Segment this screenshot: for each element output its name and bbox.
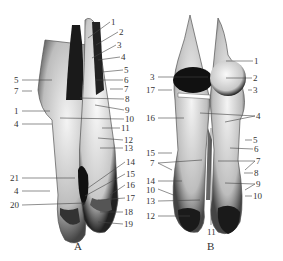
label-b-r8: 8 <box>254 169 259 178</box>
label-b-r6: 6 <box>254 145 259 154</box>
label-b-17: 17 <box>146 86 155 95</box>
label-b-r4: 4 <box>256 112 261 121</box>
label-a-5: 5 <box>14 76 19 85</box>
label-a-r8: 8 <box>125 95 130 104</box>
caption-b: B <box>207 240 214 252</box>
label-a-r14: 14 <box>126 158 135 167</box>
label-a-4: 4 <box>14 120 19 129</box>
label-b-r9: 9 <box>256 180 261 189</box>
label-b-r3: 3 <box>253 86 258 95</box>
label-a-20: 20 <box>10 201 19 210</box>
label-b-3: 3 <box>150 73 155 82</box>
label-a-r2: 2 <box>119 28 124 37</box>
label-b-16: 16 <box>146 114 155 123</box>
label-a-r7: 7 <box>124 85 129 94</box>
label-a-r18: 18 <box>124 208 133 217</box>
label-b-r2: 2 <box>253 74 258 83</box>
label-b-12: 12 <box>146 212 155 221</box>
label-b-10: 10 <box>146 186 155 195</box>
label-a-4b: 4 <box>14 187 19 196</box>
label-a-r5: 5 <box>124 66 129 75</box>
label-a-r17: 17 <box>126 194 135 203</box>
label-b-11: 11 <box>207 228 216 237</box>
label-b-15: 15 <box>146 149 155 158</box>
label-a-r19: 19 <box>124 220 133 229</box>
label-a-1: 1 <box>14 107 19 116</box>
label-b-r1: 1 <box>254 57 259 66</box>
illustration <box>0 0 283 261</box>
label-b-13: 13 <box>146 197 155 206</box>
panel-a-drawing <box>38 18 118 243</box>
anatomical-figure: 5 7 1 4 21 4 20 1 2 3 4 5 6 7 8 9 10 11 … <box>0 0 283 261</box>
label-a-r15: 15 <box>126 170 135 179</box>
label-b-r7: 7 <box>256 157 261 166</box>
label-b-r10: 10 <box>253 192 262 201</box>
label-a-r1: 1 <box>111 18 116 27</box>
label-a-r16: 16 <box>126 181 135 190</box>
label-a-r11: 11 <box>121 124 130 133</box>
caption-a: A <box>74 240 82 252</box>
label-a-r13: 13 <box>124 144 133 153</box>
label-a-r4: 4 <box>121 53 126 62</box>
label-b-7: 7 <box>150 159 155 168</box>
label-a-21: 21 <box>10 174 19 183</box>
panel-b-drawing <box>173 15 246 234</box>
label-a-7: 7 <box>14 87 19 96</box>
label-a-r3: 3 <box>117 41 122 50</box>
